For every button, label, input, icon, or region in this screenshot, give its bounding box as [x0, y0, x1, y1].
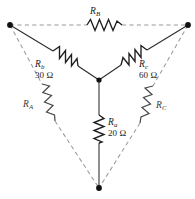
label-rc: Rc 60 Ω	[139, 59, 157, 80]
label-RA-subscript: A	[29, 103, 33, 110]
resistor-RB-zigzag	[87, 20, 122, 31]
node-center	[96, 77, 101, 82]
delta-RC-wire-upper	[153, 25, 188, 86]
wye-rb-wire-lower	[78, 66, 99, 80]
label-ra-value: 20 Ω	[108, 128, 126, 138]
label-rb-value: 30 Ω	[35, 70, 53, 80]
wye-branch-rb	[10, 25, 99, 80]
label-RC: RC	[156, 100, 167, 111]
label-RB-subscript: B	[96, 10, 100, 17]
resistor-ra-zigzag	[94, 115, 104, 143]
label-rb: Rb 30 Ω	[35, 59, 53, 80]
label-ra-subscript: a	[114, 121, 118, 128]
delta-branch-RC	[99, 25, 188, 188]
label-rc-value: 60 Ω	[139, 70, 157, 80]
wye-rb-wire-upper	[10, 25, 53, 51]
wye-branch-ra	[94, 80, 104, 188]
node-top-left	[7, 22, 13, 28]
wye-rc-wire-lower	[99, 65, 121, 80]
label-RB: RB	[90, 6, 100, 17]
wye-rc-wire-upper	[147, 25, 188, 50]
label-RC-subscript: C	[162, 104, 167, 111]
resistor-RC-zigzag	[140, 86, 153, 123]
resistor-RA-zigzag	[42, 84, 55, 121]
node-top-right	[185, 22, 191, 28]
resistor-rb-zigzag	[53, 47, 78, 67]
label-rb-subscript: b	[41, 63, 45, 70]
delta-branch-RB	[10, 20, 188, 31]
label-RA: RA	[23, 99, 33, 110]
delta-RA-wire-lower	[55, 121, 99, 188]
label-rc-subscript: c	[145, 63, 148, 70]
label-ra: Ra 20 Ω	[108, 117, 126, 138]
circuit-diagram-figure: RB Rb 30 Ω Rc 60 Ω Ra 20 Ω RA RC	[0, 0, 195, 199]
node-bottom	[96, 185, 102, 191]
